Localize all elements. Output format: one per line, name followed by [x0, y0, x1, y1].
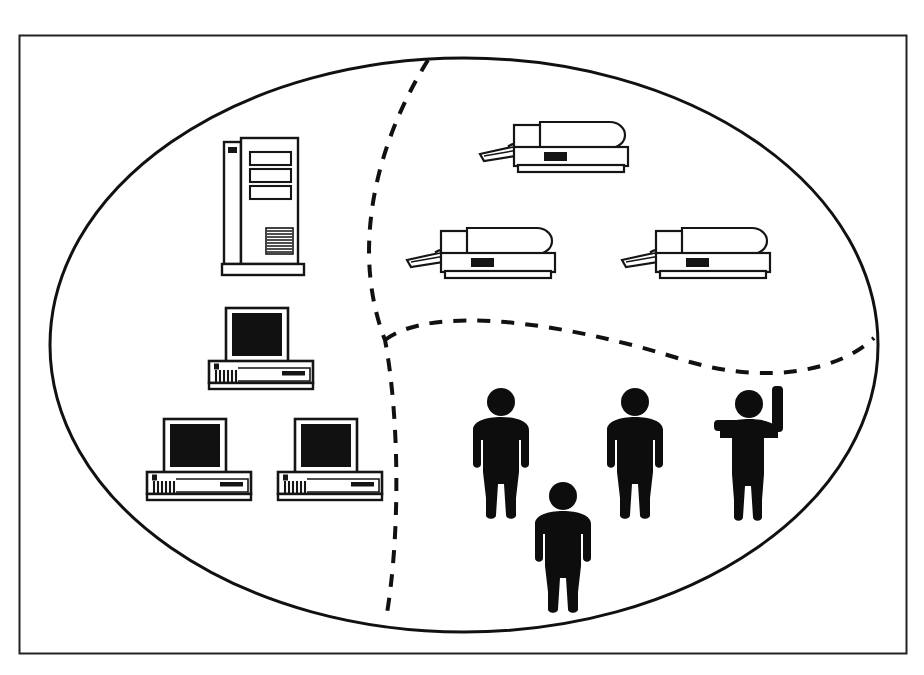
- mainframe-server-tower[interactable]: [222, 138, 304, 275]
- diagram-canvas: [0, 0, 924, 675]
- universe-ellipse: [50, 58, 878, 632]
- diagram-svg: [0, 0, 924, 675]
